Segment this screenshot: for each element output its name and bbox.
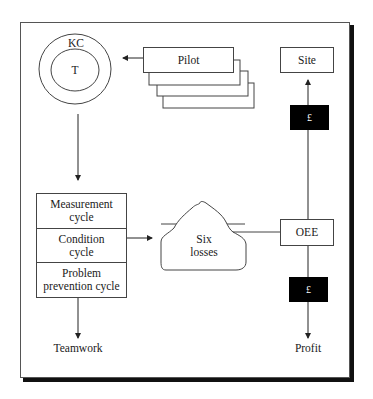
site-box: Site (280, 47, 334, 73)
teamwork-label: Teamwork (48, 342, 108, 355)
profit-label: Profit (288, 342, 328, 355)
kc-label: KC (66, 37, 86, 50)
site-label: Site (298, 54, 316, 67)
pound-box-lower: £ (289, 277, 328, 302)
six-losses-label-line1: Six (183, 233, 225, 246)
oee-label: OEE (296, 226, 318, 239)
condition-cycle: Condition cycle (37, 229, 126, 264)
oee-box: OEE (280, 219, 334, 246)
pilot-label: Pilot (178, 54, 200, 67)
t-label: T (65, 64, 85, 77)
cycles-stack: Measurement cycle Condition cycle Proble… (36, 193, 127, 298)
pound-upper-label: £ (307, 112, 312, 123)
six-losses-label-line2: losses (183, 246, 225, 259)
pilot-box: Pilot (143, 47, 234, 73)
pound-box-upper: £ (290, 105, 329, 130)
measurement-cycle: Measurement cycle (37, 194, 126, 229)
pound-lower-label: £ (306, 284, 311, 295)
problem-prevention-cycle: Problem prevention cycle (37, 263, 126, 297)
